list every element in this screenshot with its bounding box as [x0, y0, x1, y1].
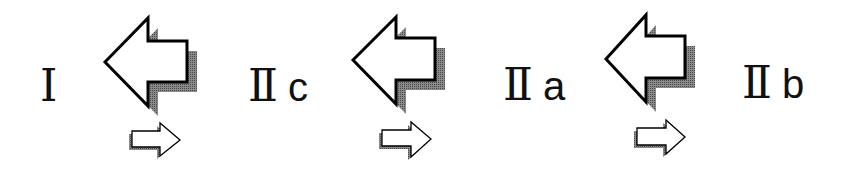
right-arrow-icon: [379, 122, 431, 160]
arrows-layer: [0, 0, 848, 175]
left-arrow-icon: [353, 17, 445, 114]
left-arrow-icon: [105, 18, 197, 116]
right-arrow-icon: [634, 120, 685, 157]
right-arrow-icon: [129, 123, 180, 159]
left-arrow-icon: [606, 15, 695, 112]
equilibrium-diagram: Ⅰ Ⅱc Ⅱa Ⅱb: [0, 0, 848, 175]
